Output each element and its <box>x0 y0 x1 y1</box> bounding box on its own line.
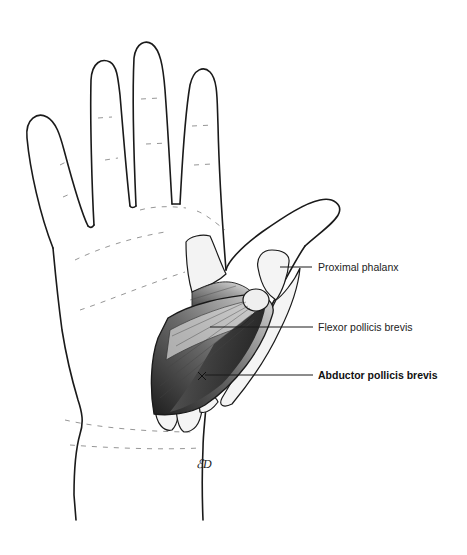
thenar-muscles <box>151 286 273 415</box>
hand-illustration: ℰD <box>0 0 467 555</box>
hand-anatomy-figure: ℰD Proximal phalanx Flexor pollicis brev… <box>0 0 467 555</box>
label-proximal-phalanx: Proximal phalanx <box>318 261 399 273</box>
artist-signature: ℰD <box>196 457 212 471</box>
label-abductor-pollicis-brevis: Abductor pollicis brevis <box>318 369 438 381</box>
label-flexor-pollicis-brevis: Flexor pollicis brevis <box>318 321 413 333</box>
